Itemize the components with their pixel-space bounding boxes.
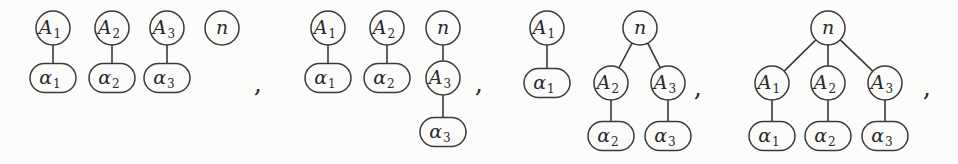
node-label-subscript: 3 [669, 82, 677, 96]
tree-edge [648, 43, 661, 68]
tree-node: n [205, 11, 239, 45]
forest-diagram-canvas: A1A2A3nα1α2α3A1A2nα1α2A3α3A1nα1A2A3α2α3n… [0, 0, 958, 164]
node-label: n [822, 16, 834, 38]
tree-node: n [811, 11, 845, 45]
node-label-subscript: 1 [54, 27, 62, 41]
tree-node: A2 [370, 11, 404, 45]
tree-node: α1 [524, 69, 570, 98]
node-label: n [437, 16, 449, 38]
tree-node: A3 [426, 61, 460, 95]
node-label-subscript: 2 [829, 82, 837, 96]
node-label: n [634, 16, 646, 38]
tree-node: α1 [30, 64, 76, 93]
tree-node: A1 [311, 11, 345, 45]
node-label-subscript: 2 [387, 77, 395, 91]
node-label-subscript: 2 [112, 77, 120, 91]
tree-node: α3 [144, 64, 190, 93]
node-label-subscript: 2 [828, 135, 836, 149]
tree-edge [784, 40, 816, 71]
node-label-subscript: 1 [329, 27, 337, 41]
node-label-subscript: 2 [611, 135, 619, 149]
tree-node: n [623, 11, 657, 45]
tree-node: α2 [588, 122, 634, 151]
tree-node: A3 [150, 11, 184, 45]
tree-node: A3 [868, 66, 902, 100]
tree-node: α1 [749, 122, 795, 151]
tree-node: A1 [36, 11, 70, 45]
list-separator-comma: , [694, 72, 702, 102]
tree-node: A2 [811, 66, 845, 100]
tree-node: α2 [805, 122, 851, 151]
node-label-subscript: 1 [547, 82, 555, 96]
node-label-subscript: 1 [53, 77, 61, 91]
tree-node: α3 [420, 118, 466, 147]
nodes-layer: A1A2A3nα1α2α3A1A2nα1α2A3α3A1nα1A2A3α2α3n… [30, 11, 908, 151]
tree-node: α1 [305, 64, 351, 93]
tree-node: α3 [862, 122, 908, 151]
node-label-subscript: 3 [886, 82, 894, 96]
list-separator-comma: , [923, 72, 931, 102]
node-label-subscript: 3 [443, 131, 451, 145]
list-separator-comma: , [475, 68, 483, 98]
tree-node: A3 [651, 66, 685, 100]
tree-edge [840, 40, 873, 71]
tree-node: α2 [364, 64, 410, 93]
node-label-subscript: 3 [168, 27, 176, 41]
node-label: n [216, 16, 228, 38]
node-label-subscript: 2 [388, 27, 396, 41]
node-label-subscript: 1 [328, 77, 336, 91]
list-separator-comma: , [254, 68, 262, 98]
tree-node: A2 [95, 11, 129, 45]
node-label-subscript: 2 [113, 27, 121, 41]
node-label-subscript: 2 [612, 82, 620, 96]
node-label-subscript: 1 [548, 27, 556, 41]
node-label-subscript: 3 [668, 135, 676, 149]
node-label-subscript: 1 [773, 82, 781, 96]
node-label-subscript: 3 [444, 77, 452, 91]
node-label-subscript: 3 [167, 77, 175, 91]
tree-edge [619, 43, 632, 68]
tree-node: α2 [89, 64, 135, 93]
node-label-subscript: 3 [885, 135, 893, 149]
tree-node: A2 [594, 66, 628, 100]
node-label-subscript: 1 [772, 135, 780, 149]
tree-node: A1 [530, 11, 564, 45]
tree-node: n [426, 11, 460, 45]
tree-node: α3 [645, 122, 691, 151]
forest-diagram-figure: A1A2A3nα1α2α3A1A2nα1α2A3α3A1nα1A2A3α2α3n… [0, 0, 958, 164]
tree-node: A1 [755, 66, 789, 100]
